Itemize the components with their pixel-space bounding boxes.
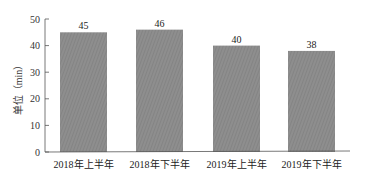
bar	[60, 32, 107, 152]
x-category-label: 2019年下半年	[282, 158, 342, 170]
y-axis-label: 单位（min）	[12, 60, 24, 116]
y-tick-label: 40	[30, 40, 40, 51]
x-axis: 2018年上半年2018年下半年2019年上半年2019年下半年	[45, 151, 350, 170]
bar-value-label: 45	[79, 20, 89, 31]
bar-value-label: 38	[307, 39, 317, 50]
bar-value-label: 46	[155, 18, 165, 29]
y-tick-label: 50	[30, 14, 40, 25]
bar-value-label: 40	[232, 34, 242, 45]
x-category-label: 2019年上半年	[207, 158, 267, 170]
bar-chart: 01020304050 45464038 2018年上半年2018年下半年201…	[0, 0, 366, 181]
bar	[213, 46, 260, 152]
x-category-label: 2018年上半年	[54, 158, 114, 170]
y-tick-label: 30	[30, 67, 40, 78]
bar	[288, 51, 335, 152]
bar	[136, 30, 183, 152]
x-category-label: 2018年下半年	[130, 158, 190, 170]
y-axis: 01020304050	[30, 14, 49, 158]
bars: 45464038	[60, 18, 335, 152]
y-tick-label: 20	[30, 93, 40, 104]
y-tick-label: 0	[35, 147, 40, 158]
y-tick-label: 10	[30, 120, 40, 131]
